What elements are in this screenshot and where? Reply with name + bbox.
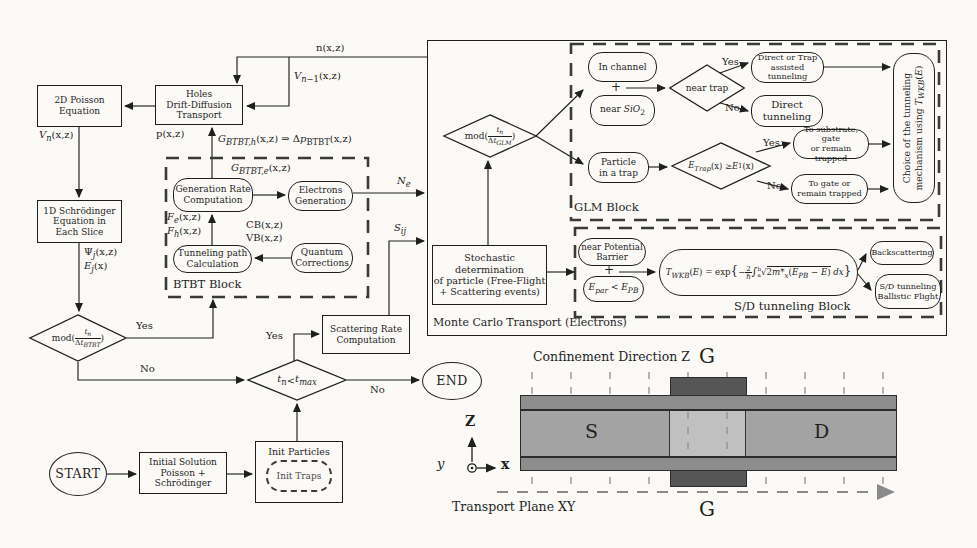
gbtbth-signal-label: GBTBT,h(x,z) ⇒ ΔpBTBT(x,z) — [218, 133, 352, 147]
n-signal-label: n(x,z) — [316, 42, 344, 55]
glm-block-title: GLM Block — [574, 200, 639, 214]
etrap-no-label: No — [767, 180, 782, 193]
drain-label: D — [814, 420, 829, 442]
direct-or-trap-tunneling-box: Direct or Trapassisted tunneling — [751, 52, 824, 83]
top-gate-rect — [670, 377, 747, 396]
arrow-sij-to-mc — [389, 241, 424, 315]
glm-plus-sign: + — [611, 80, 621, 95]
wkb-formula-box: TWKB(E) = exp{−2ℏ∫ba√2m*x(EPB − E) dx} — [659, 249, 858, 296]
arrow-vprev-to-holes — [247, 57, 289, 106]
channel-region — [669, 411, 746, 456]
init-traps-box: Init Traps — [266, 460, 332, 492]
x-axis-label: x — [501, 456, 509, 472]
etrap-yes-label: Yes — [763, 137, 780, 150]
backscattering-box: Backscattering — [870, 241, 934, 265]
z-axis-label: Z — [465, 413, 475, 429]
modbtbt-yes-label: Yes — [136, 320, 153, 333]
bottom-gate-rect — [670, 469, 747, 487]
near-potential-barrier-box: near PotentialBarrier — [578, 238, 646, 266]
source-label: S — [585, 420, 598, 442]
p-signal-label: p(x,z) — [156, 128, 184, 141]
sij-signal-label: Sij — [394, 222, 406, 236]
psi-ej-signal-label: Ψj(x,z)Ej(x) — [84, 246, 117, 275]
poisson-box: 2D PoissonEquation — [37, 85, 122, 127]
schrodinger-box: 1D SchrödingerEquation inEach Slice — [37, 200, 122, 243]
y-axis-label: y — [437, 456, 444, 471]
init-particles-box: Init Particles Init Traps — [255, 441, 343, 503]
arrow-tmax-yes — [294, 334, 319, 362]
modbtbt-no-label: No — [140, 363, 155, 376]
fe-fh-signal-label: Fe(x,z)Fh(x,z) — [167, 211, 201, 240]
vprev-signal-label: Vn−1(x,z) — [294, 70, 341, 84]
ballistic-flight-box: S/D tunnelingBallistic Flight — [875, 274, 941, 309]
vn-signal-label: Vn(x,z) — [39, 129, 74, 143]
arrow-modbtbt-no — [78, 362, 244, 380]
sd-block-title: S/D tunneling Block — [734, 299, 851, 313]
confinement-direction-label: Confinement Direction Z — [533, 349, 690, 364]
mod-btbt-decision: mod(tnΔtBTBT) — [29, 314, 127, 362]
holes-dd-box: HolesDrift-DiffusionTransport — [155, 85, 243, 125]
tmax-no-label: No — [370, 384, 385, 397]
bottom-oxide-strip — [520, 457, 897, 471]
particle-in-trap-box: Particlein a trap — [588, 152, 649, 183]
electrons-generation-box: ElectronsGeneration — [288, 181, 353, 211]
scattering-rate-box: Scattering RateComputation — [322, 315, 410, 354]
mod-glm-decision: mod(tnΔtGLM) — [443, 114, 537, 158]
etrap-decision: ETrap(x) ≥ E1(x) — [671, 142, 771, 190]
choice-tunneling-box: Choice of the tunnelingmechanism using T… — [893, 53, 935, 203]
tmax-decision: tn < tmax — [247, 359, 347, 401]
epar-condition-box: Epar < EPB — [583, 276, 644, 302]
tunneling-path-box: Tunneling pathCalculation — [173, 245, 252, 273]
near-sio2-box: near SiO2 — [590, 95, 655, 126]
start-node: START — [49, 452, 107, 496]
gbtbte-signal-label: GBTBT,e(x,z) — [231, 162, 291, 176]
neartrap-no-label: No — [725, 102, 740, 115]
top-gate-label: G — [699, 344, 715, 368]
initial-solution-box: Initial SolutionPoisson +Schrödinger — [139, 452, 227, 494]
direct-tunneling-box: Directtunneling — [751, 95, 823, 127]
cb-vb-signal-label: CB(x,z)VB(x,z) — [246, 219, 283, 244]
tmax-yes-label: Yes — [266, 330, 283, 343]
btbt-block-title: BTBT Block — [173, 277, 241, 291]
generation-rate-box: Generation RateComputation — [173, 178, 253, 212]
figure-canvas: 2D PoissonEquation HolesDrift-DiffusionT… — [0, 0, 977, 548]
stochastic-box: Stochasticdeterminationof particle (Free… — [432, 245, 547, 305]
monte-carlo-title: Monte Carlo Transport (Electrons) — [433, 316, 627, 330]
quantum-corrections-box: QuantumCorrections — [291, 243, 353, 273]
sd-plus-sign: + — [604, 263, 614, 278]
to-gate-box: To gate orremain trapped — [791, 174, 868, 204]
transport-plane-label: Transport Plane XY — [452, 499, 575, 514]
ne-signal-label: Ne — [397, 175, 411, 189]
bottom-gate-label: G — [699, 497, 715, 521]
axes — [468, 438, 495, 472]
in-channel-box: In channel — [588, 52, 657, 82]
top-oxide-strip — [520, 395, 897, 410]
end-node: END — [422, 362, 482, 400]
neartrap-yes-label: Yes — [722, 56, 739, 69]
to-substrate-box: To substrate, gateor remain trapped — [793, 129, 869, 159]
